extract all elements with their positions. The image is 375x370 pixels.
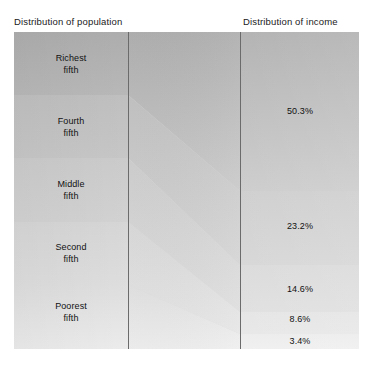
income-pct-fourth: 23.2% <box>241 221 359 231</box>
band-label-middle-line1: Middle <box>14 179 128 191</box>
right-axis-title: Distribution of income <box>243 16 338 28</box>
band-label-poorest-line1: Poorest <box>14 301 128 313</box>
income-pct-richest: 50.3% <box>241 106 359 116</box>
income-pct-second: 8.6% <box>241 314 359 324</box>
band-label-second: Second fifth <box>14 242 128 265</box>
band-label-richest-line2: fifth <box>14 65 128 77</box>
left-axis-title: Distribution of population <box>14 16 122 28</box>
band-label-poorest-line2: fifth <box>14 313 128 325</box>
band-label-poorest: Poorest fifth <box>14 301 128 324</box>
band-label-richest: Richest fifth <box>14 53 128 76</box>
band-label-fourth-line2: fifth <box>14 128 128 140</box>
band-label-second-line2: fifth <box>14 254 128 266</box>
band-label-fourth: Fourth fifth <box>14 116 128 139</box>
income-pct-middle: 14.6% <box>241 284 359 294</box>
band-label-second-line1: Second <box>14 242 128 254</box>
band-label-middle: Middle fifth <box>14 179 128 202</box>
income-distribution-figure: Distribution of population Distribution … <box>0 0 375 370</box>
band-label-fourth-line1: Fourth <box>14 116 128 128</box>
band-label-richest-line1: Richest <box>14 53 128 65</box>
income-pct-poorest: 3.4% <box>241 336 359 346</box>
band-label-middle-line2: fifth <box>14 191 128 203</box>
